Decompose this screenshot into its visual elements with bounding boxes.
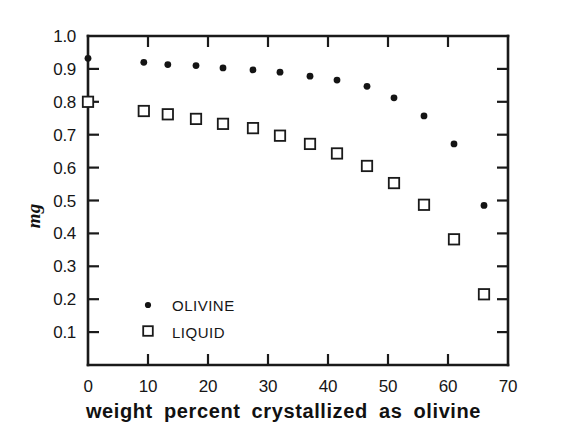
data-point-liquid xyxy=(419,200,429,210)
plot-frame xyxy=(88,36,508,365)
data-point-olivine xyxy=(421,113,428,120)
legend-marker-olivine-icon xyxy=(145,302,151,308)
data-point-liquid xyxy=(362,161,372,171)
data-point-liquid xyxy=(218,119,228,129)
data-point-olivine xyxy=(193,62,200,69)
x-tick-label: 10 xyxy=(139,377,157,396)
data-point-liquid xyxy=(191,114,201,124)
legend-label-olivine: OLIVINE xyxy=(172,297,235,314)
scatter-chart-figure: 0.10.20.30.40.50.60.70.80.91.0 010203040… xyxy=(0,0,567,446)
data-point-liquid xyxy=(139,106,149,116)
data-point-olivine xyxy=(451,141,458,148)
x-tick-label: 40 xyxy=(319,377,337,396)
data-point-liquid xyxy=(449,234,459,244)
data-point-liquid xyxy=(83,97,93,107)
data-point-olivine xyxy=(391,94,398,101)
data-point-olivine xyxy=(85,55,92,62)
y-tick-label: 0.9 xyxy=(53,60,76,79)
x-tick-label: 50 xyxy=(379,377,397,396)
y-tick-label: 0.1 xyxy=(53,323,76,342)
data-point-olivine xyxy=(364,83,371,90)
data-point-liquid xyxy=(305,139,315,149)
x-tick-label: 70 xyxy=(499,377,517,396)
legend-label-liquid: LIQUID xyxy=(172,324,225,341)
y-tick-label: 0.6 xyxy=(53,159,76,178)
data-point-liquid xyxy=(479,289,489,299)
data-point-olivine xyxy=(220,65,227,72)
data-point-olivine xyxy=(164,61,171,68)
y-tick-label: 0.2 xyxy=(53,290,76,309)
data-point-liquid xyxy=(163,109,173,119)
x-tick-label: 30 xyxy=(259,377,277,396)
data-point-olivine xyxy=(277,69,284,76)
y-tick-label: 0.5 xyxy=(53,192,76,211)
y-tick-label: 0.3 xyxy=(53,257,76,276)
chart-canvas: 0.10.20.30.40.50.60.70.80.91.0 010203040… xyxy=(0,0,567,446)
y-tick-label: 0.4 xyxy=(53,224,76,243)
data-point-liquid xyxy=(332,148,342,158)
y-tick-label: 0.8 xyxy=(53,93,76,112)
series-liquid-points xyxy=(83,97,489,300)
y-axis-title: mg xyxy=(14,196,54,236)
data-point-liquid xyxy=(248,123,258,133)
x-axis-ticks: 010203040506070 xyxy=(83,36,517,396)
y-tick-label: 0.7 xyxy=(53,126,76,145)
chart-legend: OLIVINE LIQUID xyxy=(143,297,234,341)
legend-marker-liquid-icon xyxy=(143,326,153,336)
x-tick-label: 20 xyxy=(199,377,217,396)
x-axis-title: weight percent crystallized as olivine xyxy=(0,400,567,423)
data-point-olivine xyxy=(334,77,341,84)
data-point-olivine xyxy=(250,66,257,73)
data-point-olivine xyxy=(140,59,147,66)
y-tick-label: 1.0 xyxy=(53,27,76,46)
x-tick-label: 60 xyxy=(439,377,457,396)
data-point-liquid xyxy=(275,130,285,140)
data-point-olivine xyxy=(481,202,488,209)
data-point-olivine xyxy=(307,73,314,80)
x-tick-label: 0 xyxy=(83,377,92,396)
data-point-liquid xyxy=(389,178,399,188)
